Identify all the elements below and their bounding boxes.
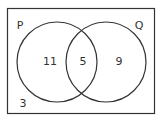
region-neither: 3 <box>20 98 27 109</box>
region-q-only: 9 <box>116 56 123 67</box>
set-label-p: P <box>17 20 24 31</box>
region-p-only: 11 <box>43 56 57 67</box>
region-p-and-q: 5 <box>80 56 87 67</box>
set-label-q: Q <box>135 20 144 31</box>
circle-q <box>66 22 146 102</box>
